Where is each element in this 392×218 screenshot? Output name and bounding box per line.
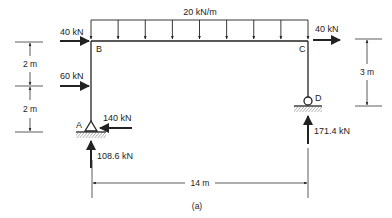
load-40kn-left-label: 40 kN: [60, 27, 84, 37]
node-label-b: B: [96, 44, 102, 54]
dimension-left-upper-label: 2 m: [23, 59, 37, 69]
reaction-a-horizontal: 140 kN: [100, 113, 132, 128]
dimension-left: 2 m 2 m: [15, 42, 43, 132]
node-label-a: A: [76, 120, 82, 130]
reaction-d-vertical-label: 171.4 kN: [314, 126, 350, 136]
ground-hatch-a: [76, 133, 106, 138]
reaction-a-vertical: 108.6 kN: [91, 141, 133, 168]
distributed-load: [91, 20, 308, 39]
reaction-a-vertical-label: 108.6 kN: [97, 151, 133, 161]
figure-caption: (a): [192, 201, 203, 211]
roller-support-icon: [304, 97, 312, 105]
distributed-load-label: 20 kN/m: [183, 7, 217, 17]
node-label-d: D: [315, 93, 322, 103]
load-60kn-left-label: 60 kN: [60, 71, 84, 81]
frame-diagram: 20 kN/m B C A D 40 kN 60 kN 40 kN 140 kN…: [0, 0, 392, 218]
dimension-right: 3 m: [355, 39, 382, 106]
reaction-d-vertical: 171.4 kN: [308, 116, 350, 144]
node-label-c: C: [299, 44, 306, 54]
ground-hatch-d: [294, 107, 322, 112]
dimension-left-lower-label: 2 m: [23, 104, 37, 114]
reaction-a-horizontal-label: 140 kN: [103, 113, 132, 123]
load-40kn-right: 40 kN: [313, 24, 340, 40]
pin-support-icon: [85, 121, 97, 131]
load-60kn-left: 60 kN: [60, 71, 89, 86]
dimension-right-label: 3 m: [360, 67, 374, 77]
load-40kn-right-label: 40 kN: [315, 24, 339, 34]
load-40kn-left: 40 kN: [60, 27, 89, 41]
frame-members: [91, 41, 308, 121]
dimension-span-label: 14 m: [191, 178, 210, 188]
